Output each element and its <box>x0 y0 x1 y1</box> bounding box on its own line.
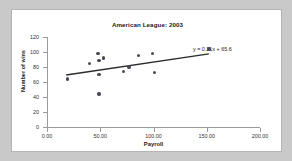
chart-title: American League: 2003 <box>12 21 283 28</box>
y-tick-label: 100 <box>13 49 39 55</box>
x-tick <box>207 128 208 132</box>
plot-area <box>47 37 260 127</box>
page-background: American League: 2003 y = 0.21x + 65.6 N… <box>0 0 292 161</box>
data-point <box>66 77 69 80</box>
chart-panel: American League: 2003 y = 0.21x + 65.6 N… <box>11 9 282 152</box>
x-tick <box>100 128 101 132</box>
data-point <box>102 56 105 59</box>
y-tick-label: 60 <box>13 79 39 85</box>
x-tick <box>260 128 261 132</box>
data-point <box>153 71 156 74</box>
x-tick <box>154 128 155 132</box>
y-tick-label: 80 <box>13 64 39 70</box>
data-point <box>97 73 100 76</box>
x-tick-label: 100.00 <box>137 133 171 139</box>
data-point <box>127 65 130 68</box>
data-point <box>122 70 125 73</box>
data-point <box>96 52 99 55</box>
x-axis-title: Payroll <box>47 141 260 147</box>
data-point <box>88 62 91 65</box>
x-tick-label: 0.00 <box>30 133 64 139</box>
x-tick-label: 150.00 <box>190 133 224 139</box>
data-point <box>97 92 100 95</box>
x-tick <box>47 128 48 132</box>
y-tick-label: 0 <box>13 124 39 130</box>
y-tick-label: 40 <box>13 94 39 100</box>
y-tick-label: 120 <box>13 34 39 40</box>
data-point <box>137 54 140 57</box>
data-point <box>151 52 154 55</box>
x-tick-label: 200.00 <box>243 133 277 139</box>
x-tick-label: 50.00 <box>83 133 117 139</box>
data-point <box>207 47 210 50</box>
y-tick-label: 20 <box>13 109 39 115</box>
data-point <box>97 59 100 62</box>
